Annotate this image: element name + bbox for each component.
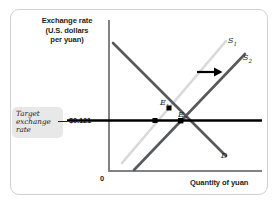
supply-curve-2-label: S2 — [243, 53, 252, 64]
equilibrium-1-label: E1 — [160, 98, 169, 109]
plot-curves — [0, 0, 279, 210]
demand-quantity-point — [153, 118, 158, 123]
exchange-rate-diagram: Exchange rate (U.S. dollars per yuan) 0 … — [0, 0, 279, 210]
supply-curve-2 — [134, 54, 245, 170]
supply-curve-1-label: S1 — [228, 36, 237, 47]
supply-curve-1 — [122, 41, 226, 163]
equilibrium-2-label: E2 — [178, 110, 187, 121]
demand-curve-label: D — [221, 151, 227, 160]
